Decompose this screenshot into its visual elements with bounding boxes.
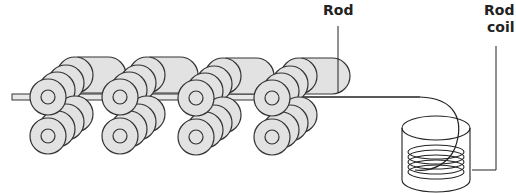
rod-coil	[402, 116, 470, 192]
rod-coil-label-line2: coil	[487, 19, 515, 36]
rolling-mill-diagram: Rod Rod coil	[0, 0, 516, 193]
rod-coil-label-line1: Rod	[484, 2, 514, 19]
diagram-graphic	[0, 0, 516, 193]
rod-label: Rod	[323, 2, 353, 19]
